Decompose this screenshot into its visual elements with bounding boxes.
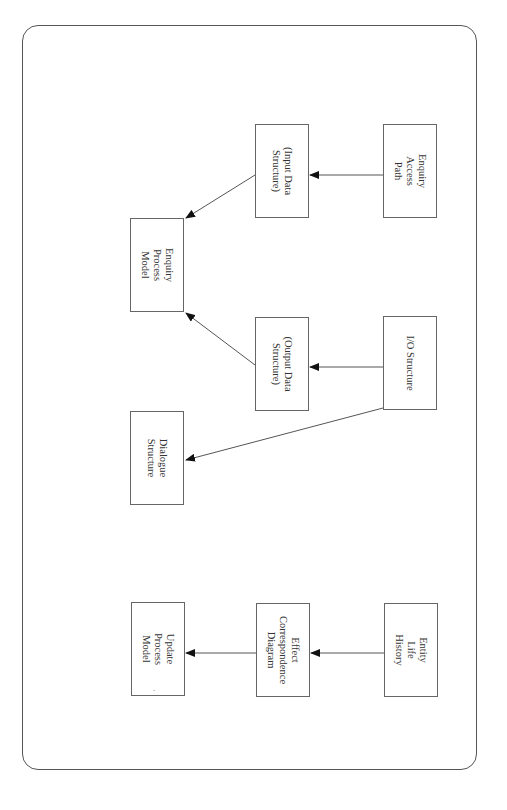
node-label: I/O Structure (404, 316, 416, 410)
node-io-structure: I/O Structure (383, 316, 437, 410)
node-label: (Input Data Structure) (270, 124, 294, 218)
node-effect-correspondence-diagram: Effect Correspondence Diagram (256, 603, 310, 697)
edge-input-data-to-enquiry-process (186, 175, 255, 218)
node-input-data-structure: (Input Data Structure) (255, 124, 309, 218)
stray-mark: . (153, 684, 155, 693)
edge-output-data-to-enquiry-process (186, 313, 255, 365)
node-entity-life-history: Entity Life History (384, 603, 438, 697)
node-label: Enquiry Access Path (392, 124, 428, 218)
edge-io-to-dialogue (186, 408, 383, 460)
node-label: Effect Correspondence Diagram (265, 603, 301, 697)
node-label: Update Process Model (140, 602, 176, 696)
node-update-process-model: Update Process Model . (131, 602, 185, 696)
node-enquiry-process-model: Enquiry Process Model (130, 218, 184, 312)
node-output-data-structure: (Output Data Structure) (255, 317, 309, 411)
node-dialogue-structure: Dialogue Structure (130, 411, 184, 505)
node-label: (Output Data Structure) (270, 317, 294, 411)
node-label: Entity Life History (393, 603, 429, 697)
node-enquiry-access-path: Enquiry Access Path (383, 124, 437, 218)
node-label: Dialogue Structure (145, 411, 169, 505)
node-label: Enquiry Process Model (139, 218, 175, 312)
